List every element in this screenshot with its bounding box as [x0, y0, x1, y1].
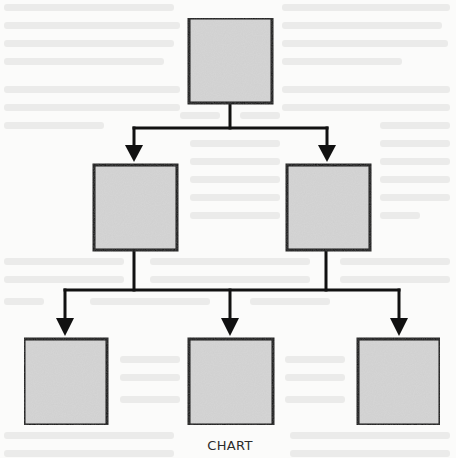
- connectors-level-2: [65, 250, 399, 320]
- arrowhead-icon: [221, 318, 239, 336]
- node-bottom-left: [24, 339, 107, 425]
- hierarchy-diagram: [0, 0, 456, 458]
- connectors-level-1: [134, 103, 327, 148]
- arrowhead-icon: [318, 145, 336, 162]
- arrowhead-icon: [390, 318, 408, 336]
- arrowhead-icon: [56, 318, 74, 336]
- node-bottom-right: [358, 339, 440, 425]
- arrowhead-icon: [125, 145, 143, 162]
- node-root: [189, 18, 272, 103]
- node-mid-right: [287, 165, 370, 250]
- figure-caption: CHART: [0, 438, 456, 453]
- node-bottom-center: [189, 339, 273, 425]
- node-mid-left: [94, 165, 177, 250]
